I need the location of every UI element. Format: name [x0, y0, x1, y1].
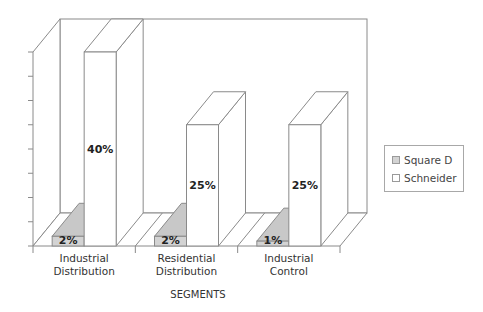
- bar-value-label: 2%: [59, 234, 78, 247]
- legend-swatch-square-d: [392, 156, 400, 164]
- category-label: Industrial: [60, 252, 109, 264]
- category-label: Distribution: [156, 265, 217, 277]
- bar-schneider-2: [289, 92, 348, 246]
- category-label: Industrial: [264, 252, 313, 264]
- category-label: Distribution: [54, 265, 115, 277]
- category-label: Residential: [158, 252, 216, 264]
- bar-value-label: 2%: [161, 234, 180, 247]
- category-label: Control: [270, 265, 308, 277]
- legend: Square D Schneider: [384, 145, 464, 192]
- bar-value-label: 25%: [189, 179, 215, 192]
- category-labels: IndustrialDistributionResidentialDistrib…: [54, 252, 314, 277]
- legend-swatch-schneider: [392, 174, 400, 182]
- side-wall: [33, 19, 60, 246]
- bar-schneider-0: [84, 19, 143, 246]
- x-axis-title: SEGMENTS: [170, 289, 225, 300]
- legend-label: Square D: [404, 154, 452, 166]
- bar-value-label: 25%: [292, 179, 318, 192]
- bar-schneider-1: [187, 92, 246, 246]
- legend-item-schneider: Schneider: [392, 169, 463, 187]
- bar-value-label: 1%: [263, 234, 282, 247]
- legend-label: Schneider: [404, 172, 457, 184]
- legend-item-square-d: Square D: [392, 151, 463, 169]
- bar-value-label: 40%: [87, 143, 113, 156]
